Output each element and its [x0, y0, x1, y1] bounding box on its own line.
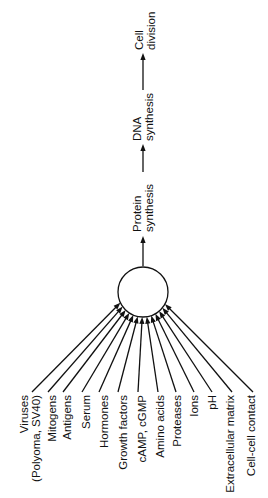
input-factor-4: Hormones — [98, 395, 110, 448]
pathway-stage-2: Celldivision — [133, 12, 158, 50]
arrowhead-icon — [139, 317, 144, 324]
pathway-stage-0-line: Protein — [131, 196, 143, 232]
hub — [118, 267, 168, 317]
arrowhead-icon — [145, 317, 150, 324]
input-arrow-line-6 — [138, 322, 142, 392]
input-factor-2: Antigens — [61, 395, 73, 440]
input-arrow-line-12 — [168, 308, 253, 392]
input-factor-8-line: Proteases — [171, 395, 183, 447]
pathway-stage-0: Proteinsynthesis — [131, 184, 156, 232]
input-factor-7-line: Amino acids — [154, 395, 166, 458]
input-factor-6: cAMP, cGMP — [136, 395, 148, 463]
arrowhead-icon — [128, 315, 133, 322]
input-arrow-line-5 — [118, 321, 136, 392]
arrowhead-icon — [133, 316, 138, 323]
input-factors: Viruses(Polyoma, SV40)MitogensAntigensSe… — [18, 303, 257, 493]
input-arrow-line-1 — [48, 310, 119, 392]
arrow-up-icon — [140, 236, 145, 243]
input-factor-0: Viruses(Polyoma, SV40) — [18, 395, 43, 482]
pathway-stage-2-line: division — [145, 12, 157, 50]
input-arrow-line-2 — [63, 314, 123, 392]
pathway-stage-0-line: synthesis — [143, 184, 155, 232]
input-factor-1: Mitogens — [46, 395, 58, 442]
input-factor-5-line: Growth factors — [117, 395, 129, 470]
input-factor-11-line: Extracellular matrix — [224, 395, 236, 493]
input-factor-6-line: cAMP, cGMP — [136, 395, 148, 463]
input-factor-11: Extracellular matrix — [224, 395, 236, 493]
input-factor-0-line: Viruses — [18, 395, 30, 433]
input-factor-1-line: Mitogens — [46, 395, 58, 442]
arrowhead-icon — [151, 316, 156, 323]
input-factor-3: Serum — [80, 395, 92, 429]
input-factor-10-line: pH — [206, 395, 218, 410]
pathway-stage-2-line: Cell — [133, 30, 145, 50]
input-factor-3-line: Serum — [80, 395, 92, 429]
input-arrow-line-11 — [166, 312, 232, 392]
input-factor-9-line: Ions — [188, 395, 200, 417]
input-factor-0-line: (Polyoma, SV40) — [30, 395, 42, 482]
input-factor-4-line: Hormones — [98, 395, 110, 448]
input-factor-9: Ions — [188, 395, 200, 417]
arrow-up-icon — [140, 53, 145, 60]
input-factor-7: Amino acids — [154, 395, 166, 458]
pathway-sequence: ProteinsynthesisDNAsynthesisCelldivision — [131, 12, 158, 266]
pathway-stage-1-line: DNA — [131, 116, 143, 141]
pathway-stage-1: DNAsynthesis — [131, 93, 156, 141]
input-factor-8: Proteases — [171, 395, 183, 447]
cell-proliferation-diagram: ProteinsynthesisDNAsynthesisCelldivision… — [0, 0, 268, 498]
pathway-stage-1-line: synthesis — [143, 93, 155, 141]
input-factor-12-line: Cell-cell contact — [245, 394, 257, 476]
cell-hub-circle — [118, 267, 168, 317]
input-factor-12: Cell-cell contact — [245, 394, 257, 476]
input-factor-2-line: Antigens — [61, 395, 73, 440]
arrow-up-icon — [140, 144, 145, 151]
input-factor-5: Growth factors — [117, 395, 129, 470]
input-factor-10: pH — [206, 395, 218, 410]
